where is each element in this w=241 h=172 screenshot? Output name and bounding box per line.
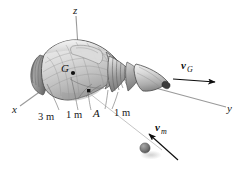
- velocity-vector-G: v G: [173, 59, 215, 82]
- space-capsule: [31, 40, 171, 101]
- mass-center-label: G: [61, 62, 69, 74]
- velocity-G-subscript: G: [187, 65, 193, 74]
- meteoroid-sphere: [140, 143, 150, 153]
- velocity-m-symbol: v: [155, 121, 160, 133]
- physics-figure: G A 3 m 1 m 1 m z x y v: [0, 0, 241, 172]
- dimension-label-3m: 3 m: [38, 111, 54, 122]
- mass-center-marker: [71, 71, 75, 75]
- dimension-label-1m-right: 1 m: [114, 107, 130, 118]
- velocity-G-arrow: [173, 79, 215, 82]
- dimension-label-1m-left: 1 m: [66, 109, 82, 120]
- y-axis-label: y: [226, 102, 232, 114]
- velocity-G-symbol: v: [181, 59, 186, 71]
- velocity-m-subscript: m: [161, 127, 167, 136]
- x-axis-label: x: [11, 103, 17, 115]
- impact-point-marker: [87, 89, 90, 92]
- figure-canvas: G A 3 m 1 m 1 m z x y v: [0, 0, 241, 172]
- impact-trajectory-line: [89, 93, 162, 150]
- z-axis-label: z: [72, 4, 78, 16]
- meteoroid-group: [140, 143, 162, 160]
- impact-point-label: A: [92, 107, 100, 119]
